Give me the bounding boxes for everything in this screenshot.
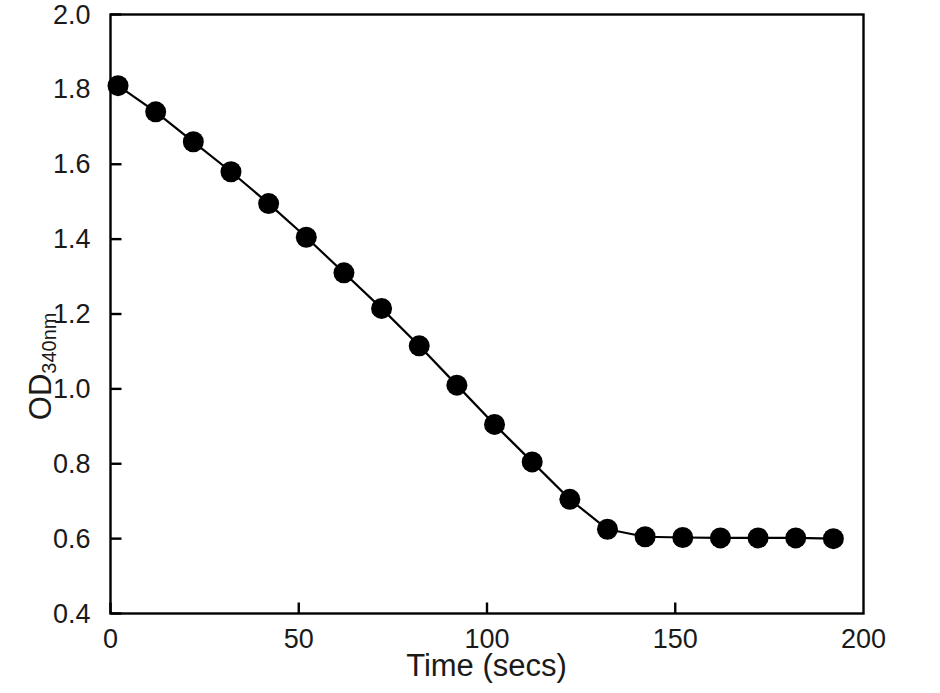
data-point	[559, 489, 580, 510]
y-tick-label: 1.8	[0, 74, 91, 105]
data-point	[145, 101, 166, 122]
data-point	[183, 131, 204, 152]
data-point	[635, 526, 656, 547]
axis-ticks	[111, 15, 676, 614]
data-point	[296, 227, 317, 248]
plot-area	[0, 0, 940, 693]
data-point	[710, 527, 731, 548]
y-axis-title: OD340nm	[23, 266, 62, 466]
data-point	[785, 527, 806, 548]
data-point	[823, 528, 844, 549]
series-line	[118, 86, 833, 539]
data-point	[446, 375, 467, 396]
y-axis-title-main: OD	[23, 374, 58, 421]
series-markers	[108, 75, 844, 549]
data-point	[748, 527, 769, 548]
data-point	[522, 451, 543, 472]
data-series	[108, 75, 844, 549]
y-axis-title-subscript: 340nm	[38, 312, 60, 373]
chart-figure: 0.40.60.81.01.21.41.61.82.0 050100150200…	[0, 0, 940, 693]
data-point	[258, 193, 279, 214]
y-tick-label: 1.4	[0, 224, 91, 255]
y-tick-label: 2.0	[0, 0, 91, 30]
data-point	[371, 298, 392, 319]
x-axis-title: Time (secs)	[110, 648, 863, 684]
data-point	[220, 161, 241, 182]
data-point	[409, 335, 430, 356]
data-point	[672, 527, 693, 548]
y-tick-label: 0.6	[0, 523, 91, 554]
data-point	[597, 519, 618, 540]
data-point	[484, 414, 505, 435]
y-tick-label: 0.4	[0, 598, 91, 629]
axes-frame	[111, 15, 864, 614]
data-point	[108, 75, 129, 96]
y-tick-label: 1.6	[0, 149, 91, 180]
data-point	[333, 262, 354, 283]
